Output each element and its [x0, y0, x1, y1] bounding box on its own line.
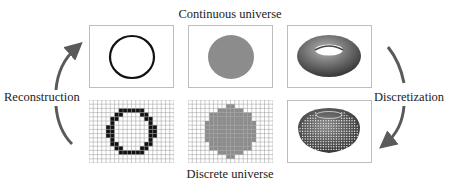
reconstruction-arrow-lower [56, 106, 72, 144]
reconstruction-arrow-upper [56, 48, 76, 90]
process-arrows [0, 0, 461, 184]
discretization-arrow-upper [388, 47, 404, 83]
discretization-arrow-lower [386, 106, 404, 143]
